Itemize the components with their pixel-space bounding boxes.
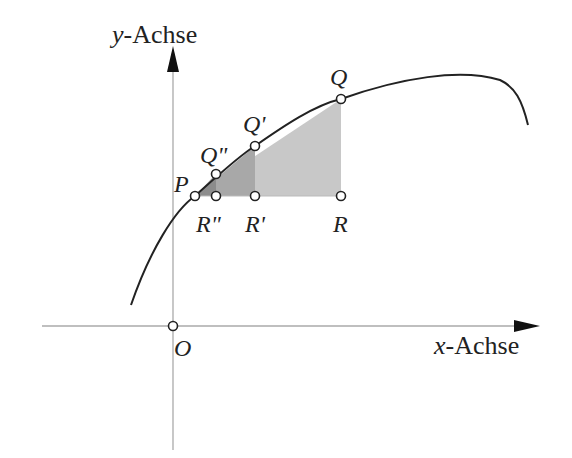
origin-label: O	[174, 335, 191, 361]
point-Q1	[251, 142, 260, 151]
label-Q2: Q"	[200, 142, 228, 168]
y-axis-arrow-icon	[167, 46, 179, 72]
x-axis-label: x-Achse	[433, 331, 519, 360]
point-R2	[212, 192, 221, 201]
point-Q2	[212, 170, 221, 179]
point-P	[191, 192, 200, 201]
point-origin	[169, 322, 178, 331]
label-R2: R"	[195, 211, 222, 237]
point-R1	[251, 192, 260, 201]
label-Q: Q	[330, 64, 347, 90]
y-axis-label: y-Achse	[109, 20, 197, 49]
label-R: R	[332, 211, 348, 237]
label-P: P	[173, 171, 189, 197]
label-R1: R'	[244, 211, 266, 237]
secant-diagram: y-Achse x-Achse O P Q" Q' Q R" R' R	[0, 0, 572, 458]
label-Q1: Q'	[243, 111, 266, 137]
point-R	[337, 192, 346, 201]
point-Q	[337, 95, 346, 104]
